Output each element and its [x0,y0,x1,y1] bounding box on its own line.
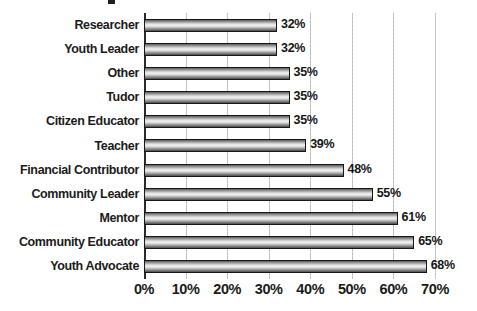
bar-value-label: 32% [281,17,305,31]
plot-area: 32%32%35%35%35%39%48%55%61%65%68% [144,13,435,279]
bar [144,115,290,128]
category-label: Other [1,66,139,80]
bar-value-label: 39% [310,137,334,151]
x-tick-label: 0% [134,281,154,297]
bar [144,188,373,201]
bar [144,43,277,56]
x-tick-label: 70% [421,281,449,297]
x-tick-label: 40% [296,281,324,297]
bar-row: 35% [144,86,435,110]
x-tick-label: 60% [380,281,408,297]
category-label: Tudor [1,90,139,104]
bar-row: 68% [144,255,435,279]
bar [144,91,290,104]
bar-value-label: 61% [402,210,426,224]
x-tick-label: 20% [213,281,241,297]
bar [144,164,344,177]
category-label: Financial Contributor [1,163,139,177]
chart-title: Role [108,0,115,4]
bar-row: 65% [144,231,435,255]
x-tick-label: 50% [338,281,366,297]
value-axis-labels: 0%10%20%30%40%50%60%70% [144,281,444,305]
bar-row: 35% [144,110,435,134]
bar-value-label: 48% [348,162,372,176]
category-label: Youth Advocate [1,259,139,273]
category-label: Mentor [1,211,139,225]
bar-value-label: 35% [294,113,318,127]
bar-value-label: 65% [418,234,442,248]
x-tick-label: 10% [172,281,200,297]
category-label: Community Educator [1,235,139,249]
bar-value-label: 32% [281,41,305,55]
bar-chart: Role ResearcherYouth LeaderOtherTudorCit… [0,0,477,311]
bar [144,19,277,32]
bar-row: 39% [144,134,435,158]
category-label: Researcher [1,18,139,32]
x-tick-label: 30% [255,281,283,297]
category-label: Youth Leader [1,42,139,56]
category-label: Teacher [1,139,139,153]
bar-row: 55% [144,182,435,206]
bar [144,212,398,225]
bar [144,236,414,249]
bar-value-label: 68% [431,258,455,272]
bar-value-label: 35% [294,65,318,79]
chart-title-remnant: Role [108,0,115,4]
bar [144,260,427,273]
bar-row: 32% [144,13,435,37]
bar-row: 35% [144,61,435,85]
bar-row: 32% [144,37,435,61]
category-label: Community Leader [1,187,139,201]
bar-value-label: 35% [294,89,318,103]
bar [144,139,306,152]
bar-row: 48% [144,158,435,182]
bar-row: 61% [144,206,435,230]
category-label: Citizen Educator [1,114,139,128]
bar-value-label: 55% [377,186,401,200]
bar [144,67,290,80]
category-axis-labels: ResearcherYouth LeaderOtherTudorCitizen … [0,13,139,279]
